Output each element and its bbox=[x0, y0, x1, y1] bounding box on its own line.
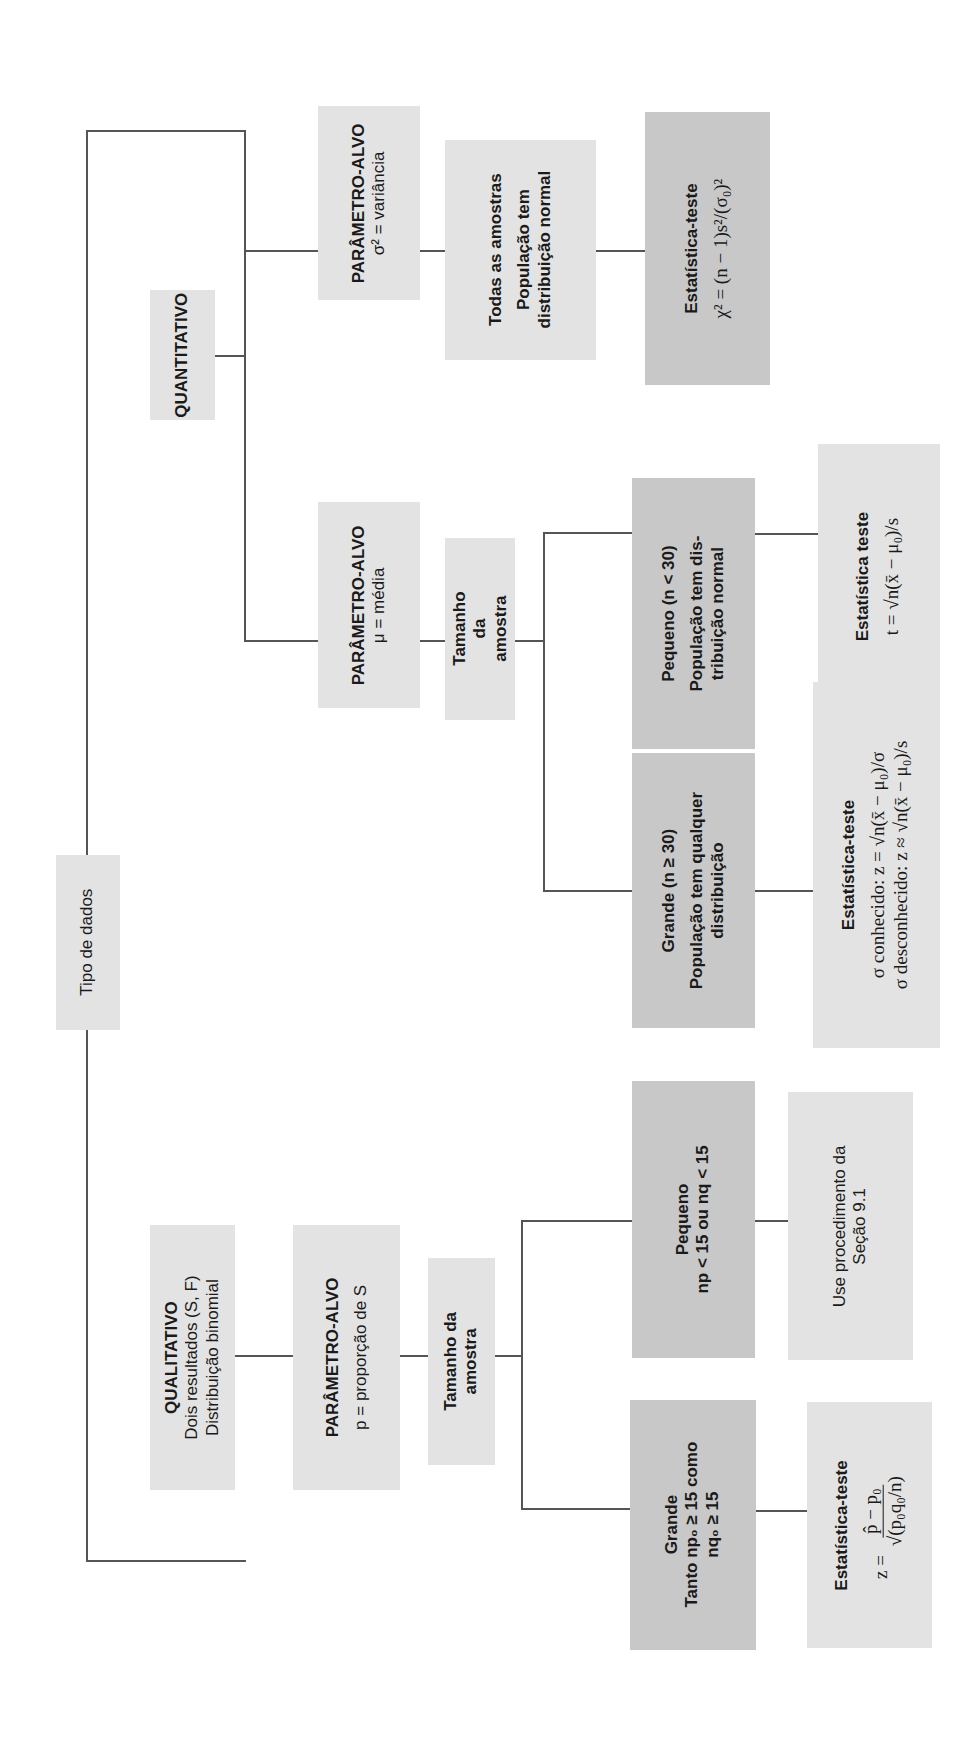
qual-fork-line bbox=[521, 1220, 523, 1510]
mean-small-desc-line1: População tem dis- bbox=[687, 536, 707, 692]
proportion-small-title: Pequeno bbox=[673, 1145, 693, 1293]
variance-param-title: PARÂMETRO-ALVO bbox=[349, 123, 369, 283]
t-test-box: Estatística teste t = √n(x̄ − μ₀)/s bbox=[818, 444, 940, 709]
mean-large-desc-line2: distribuição bbox=[708, 792, 728, 989]
proportion-small-action-line2: Seção 9.1 bbox=[851, 1145, 871, 1307]
mean-param-desc: μ = média bbox=[369, 525, 389, 685]
mean-small-sample-box: Pequeno (n < 30) População tem dis- trib… bbox=[632, 478, 755, 749]
variance-condition-line3: distribuição normal bbox=[535, 171, 555, 329]
proportion-z-test-box: Estatística-teste z = p̂ − p₀ √(p₀q₀/n) bbox=[807, 1402, 932, 1648]
proportion-large-sample-box: Grande Tanto np₀ ≥ 15 como nq₀ ≥ 15 bbox=[630, 1400, 756, 1650]
proportion-z-fraction: p̂ − p₀ √(p₀q₀/n) bbox=[860, 1472, 907, 1550]
chi-square-test-title: Estatística-teste bbox=[682, 179, 702, 319]
variance-condition-box: Todas as amostras População tem distribu… bbox=[445, 140, 596, 360]
mean-large-desc-line1: População tem qualquer bbox=[687, 792, 707, 989]
proportion-z-denominator: √(p₀q₀/n) bbox=[884, 1472, 907, 1550]
qual-small-to-action-line bbox=[755, 1220, 788, 1222]
root-trunk-line bbox=[86, 130, 88, 1562]
fork-to-large-line bbox=[543, 890, 632, 892]
qualitative-desc-line2: Distribuição binomial bbox=[203, 1275, 223, 1439]
proportion-large-desc-line2: nq₀ ≥ 15 bbox=[703, 1442, 723, 1608]
qual-fork-to-large-line bbox=[521, 1508, 630, 1510]
mean-small-title: Pequeno (n < 30) bbox=[659, 536, 679, 692]
qual-branch-line bbox=[86, 1560, 246, 1562]
quant-box-line bbox=[215, 355, 245, 357]
proportion-large-title: Grande bbox=[662, 1442, 682, 1608]
large-to-z-line bbox=[755, 890, 813, 892]
z-test-mean-box: Estatística-teste σ conhecido: z = √n(x̄… bbox=[813, 682, 940, 1048]
qualitative-desc-line1: Dois resultados (S, F) bbox=[182, 1275, 202, 1439]
variance-condition-line2: População tem bbox=[514, 171, 534, 329]
proportion-small-action-box: Use procedimento da Seção 9.1 bbox=[788, 1092, 913, 1360]
mean-fork-line bbox=[543, 532, 545, 892]
chi-square-formula: χ² = (n − 1)s²/(σ₀)² bbox=[710, 179, 733, 319]
mean-param-title: PARÂMETRO-ALVO bbox=[349, 525, 369, 685]
proportion-param-box: PARÂMETRO-ALVO p = proporção de S bbox=[293, 1225, 400, 1490]
quant-to-variance-line bbox=[244, 250, 318, 252]
variance-param-box: PARÂMETRO-ALVO σ² = variância bbox=[318, 106, 420, 300]
quant-stem-line bbox=[244, 130, 246, 640]
qual-box-line bbox=[235, 1355, 293, 1357]
small-to-t-line bbox=[755, 533, 818, 535]
mean-sample-size-label: Tamanho da amostra bbox=[449, 592, 510, 666]
mean-to-size-line bbox=[420, 640, 445, 642]
variance-param-desc: σ² = variância bbox=[369, 123, 389, 283]
z-test-unknown-formula: σ desconhecido: z ≈ √n(x̄ − μ₀)/s bbox=[891, 741, 914, 990]
quant-to-mean-line bbox=[244, 640, 318, 642]
qual-large-to-test-line bbox=[756, 1510, 807, 1512]
proportion-sample-size-line1: Tamanho da bbox=[441, 1312, 461, 1411]
qualitative-box: QUALITATIVO Dois resultados (S, F) Distr… bbox=[150, 1225, 235, 1490]
proportion-param-desc: p = proporção de S bbox=[351, 1278, 371, 1438]
proportion-sample-size-box: Tamanho da amostra bbox=[428, 1258, 495, 1465]
z-test-known-formula: σ conhecido: z = √n(x̄ − μ₀)/σ bbox=[868, 741, 891, 990]
proportion-z-lhs: z = bbox=[871, 1554, 892, 1578]
mean-small-desc-line2: tribuição normal bbox=[708, 536, 728, 692]
proportion-small-desc: np < 15 ou nq < 15 bbox=[694, 1145, 714, 1293]
qual-param-to-size-line bbox=[400, 1355, 428, 1357]
quantitative-box: QUANTITATIVO bbox=[150, 290, 215, 420]
qual-size-to-fork-line bbox=[495, 1355, 523, 1357]
proportion-z-test-title: Estatística-teste bbox=[832, 1460, 852, 1590]
root-data-type-box: Tipo de dados bbox=[56, 855, 120, 1030]
proportion-small-action-line1: Use procedimento da bbox=[830, 1145, 850, 1307]
quant-branch-line bbox=[86, 130, 246, 132]
mean-param-box: PARÂMETRO-ALVO μ = média bbox=[318, 502, 420, 708]
mean-large-sample-box: Grande (n ≥ 30) População tem qualquer d… bbox=[632, 753, 755, 1028]
condition-to-chi-line bbox=[596, 250, 645, 252]
mean-sample-size-box: Tamanho da amostra bbox=[445, 538, 515, 720]
z-test-mean-title: Estatística-teste bbox=[840, 741, 860, 990]
t-test-title: Estatística teste bbox=[853, 512, 873, 641]
fork-to-small-line bbox=[543, 532, 632, 534]
variance-to-condition-line bbox=[420, 250, 445, 252]
qualitative-title: QUALITATIVO bbox=[162, 1275, 182, 1439]
mean-large-title: Grande (n ≥ 30) bbox=[659, 792, 679, 989]
proportion-param-title: PARÂMETRO-ALVO bbox=[322, 1278, 342, 1438]
chi-square-test-box: Estatística-teste χ² = (n − 1)s²/(σ₀)² bbox=[645, 112, 770, 385]
proportion-small-sample-box: Pequeno np < 15 ou nq < 15 bbox=[632, 1081, 755, 1358]
quantitative-title: QUANTITATIVO bbox=[172, 293, 192, 418]
root-label: Tipo de dados bbox=[78, 889, 98, 996]
qual-fork-to-small-line bbox=[521, 1220, 632, 1222]
size-to-fork-line bbox=[515, 640, 543, 642]
proportion-sample-size-line2: amostra bbox=[462, 1312, 482, 1411]
proportion-large-desc-line1: Tanto np₀ ≥ 15 como bbox=[683, 1442, 703, 1608]
proportion-z-numerator: p̂ − p₀ bbox=[860, 1484, 884, 1538]
variance-condition-line1: Todas as amostras bbox=[486, 171, 506, 329]
t-test-formula: t = √n(x̄ − μ₀)/s bbox=[882, 512, 905, 641]
